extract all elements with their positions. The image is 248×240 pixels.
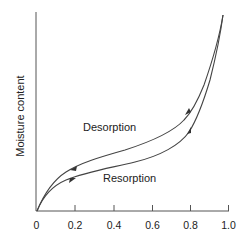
x-tick-label: 1.0: [221, 219, 236, 231]
x-tick-label: 0.2: [68, 219, 83, 231]
y-axis-label: Moisture content: [14, 75, 26, 156]
resorption-label: Resorption: [103, 172, 156, 184]
resorption-arrow-icon: [187, 127, 191, 134]
x-tick-label: 0.6: [145, 219, 160, 231]
x-tick-label: 0: [34, 219, 40, 231]
desorption-label: Desorption: [83, 121, 136, 133]
resorption-arrow-icon: [69, 178, 76, 183]
x-ticks: [75, 205, 229, 211]
chart-canvas: 0 0.2 0.4 0.6 0.8 1.0 Moisture content D…: [0, 0, 248, 240]
sorption-isotherm-chart: 0 0.2 0.4 0.6 0.8 1.0 Moisture content D…: [0, 0, 248, 240]
x-tick-label: 0.4: [107, 219, 122, 231]
desorption-arrow-icon: [185, 108, 191, 115]
x-tick-label: 0.8: [183, 219, 198, 231]
